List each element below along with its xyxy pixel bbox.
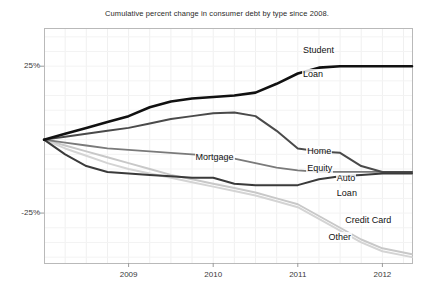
chart-figure: Cumulative percent change in consumer de… <box>0 0 434 296</box>
series-label-credit-card: Credit Card <box>344 215 392 225</box>
y-axis-tick-label: 25% <box>8 61 40 70</box>
series-label-home: Home <box>306 146 332 156</box>
y-axis-tick-label: -25% <box>8 208 40 217</box>
series-label-student: Student <box>302 45 335 55</box>
x-axis-tick-label: 2011 <box>278 270 318 279</box>
series-line-student-loan <box>44 66 412 139</box>
grid-lines <box>44 28 412 263</box>
series-label-mortgage: Mortgage <box>195 152 235 162</box>
x-axis-tick-label: 2012 <box>362 270 402 279</box>
series-label-other: Other <box>327 232 352 242</box>
series-label-equity: Equity <box>306 163 333 173</box>
series-label-loan: Loan <box>336 188 358 198</box>
series-label-auto: Auto <box>336 173 357 183</box>
x-axis-tick-label: 2010 <box>193 270 233 279</box>
series-label-loan: Loan <box>302 69 324 79</box>
series-line-home-equity <box>44 113 412 172</box>
x-axis-tick-label: 2009 <box>109 270 149 279</box>
line-chart-plot <box>0 0 434 296</box>
